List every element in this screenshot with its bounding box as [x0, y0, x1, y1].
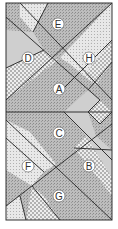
puzzle-diagram: E D H A C F B G [0, 0, 118, 229]
label-A-text: A [56, 84, 63, 95]
label-F-text: F [25, 161, 31, 172]
label-E-text: E [55, 19, 62, 30]
label-D-text: D [24, 53, 31, 64]
label-G: G [53, 190, 65, 202]
label-C-text: C [55, 128, 62, 139]
label-D: D [22, 52, 34, 64]
label-B-text: B [86, 161, 93, 172]
label-G-text: G [55, 191, 63, 202]
label-H: H [83, 52, 95, 64]
label-A: A [53, 83, 65, 95]
label-F: F [22, 160, 34, 172]
label-B: B [83, 160, 95, 172]
label-E: E [52, 18, 64, 30]
label-H-text: H [85, 53, 92, 64]
label-C: C [53, 127, 65, 139]
